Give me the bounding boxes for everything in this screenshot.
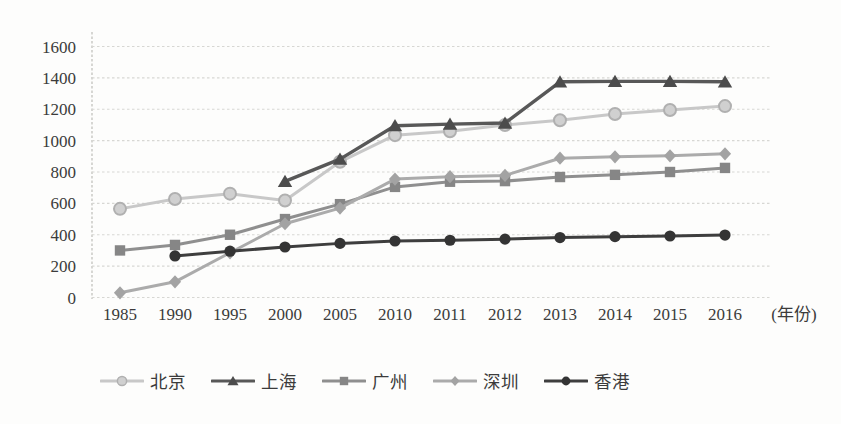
x-axis-tick-label: 1995 <box>213 305 247 324</box>
legend-label-shanghai: 上海 <box>261 368 297 393</box>
legend-marker-hongkong <box>544 373 588 389</box>
marker-shenzhen <box>554 152 566 165</box>
x-axis-tick-label: 2013 <box>543 305 577 324</box>
y-axis-tick-label: 1600 <box>42 38 76 57</box>
marker-beijing <box>114 203 126 215</box>
marker-guangzhou <box>225 230 235 240</box>
marker-beijing <box>609 108 621 120</box>
legend-item-guangzhou: 广州 <box>322 368 408 393</box>
marker-guangzhou <box>665 167 675 177</box>
marker-shenzhen <box>719 147 731 160</box>
x-axis-tick-label: 2000 <box>268 305 302 324</box>
legend-marker-guangzhou <box>322 373 366 389</box>
marker-hongkong <box>609 231 620 242</box>
x-axis-tick-label: 1990 <box>158 305 192 324</box>
legend-label-beijing: 北京 <box>150 368 186 393</box>
x-axis-unit-label: (年份) <box>771 305 816 324</box>
x-axis-tick-label: 2005 <box>323 305 357 324</box>
legend-marker-shenzhen <box>433 373 477 389</box>
legend-label-shenzhen: 深圳 <box>483 368 519 393</box>
legend-label-guangzhou: 广州 <box>372 368 408 393</box>
line-chart-canvas: 1600140012001000800600400200019851990199… <box>0 0 841 344</box>
legend-label-hongkong: 香港 <box>594 368 630 393</box>
y-axis-tick-label: 600 <box>51 194 77 213</box>
legend-item-shanghai: 上海 <box>211 368 297 393</box>
marker-hongkong <box>389 235 400 246</box>
y-axis-tick-label: 1400 <box>42 69 76 88</box>
x-axis-tick-label: 2016 <box>708 305 742 324</box>
line-chart-figure: 1600140012001000800600400200019851990199… <box>0 0 841 424</box>
marker-beijing <box>664 104 676 116</box>
marker-guangzhou <box>115 245 125 255</box>
marker-hongkong <box>664 230 675 241</box>
x-axis-tick-label: 2014 <box>598 305 633 324</box>
marker-hongkong <box>554 232 565 243</box>
legend-item-shenzhen: 深圳 <box>433 368 519 393</box>
legend-item-beijing: 北京 <box>100 368 186 393</box>
y-axis-tick-label: 400 <box>51 226 77 245</box>
marker-shenzhen <box>609 150 621 163</box>
marker-hongkong <box>279 241 290 252</box>
marker-hongkong <box>224 246 235 257</box>
marker-shenzhen <box>169 275 181 288</box>
marker-hongkong <box>169 250 180 261</box>
marker-hongkong <box>719 229 730 240</box>
marker-guangzhou <box>170 240 180 250</box>
series-shenzhen <box>114 147 731 299</box>
x-axis-tick-label: 1985 <box>103 305 137 324</box>
marker-shenzhen <box>664 149 676 162</box>
x-axis-tick-label: 2015 <box>653 305 687 324</box>
marker-beijing <box>554 114 566 126</box>
marker-hongkong <box>444 235 455 246</box>
marker-guangzhou <box>555 172 565 182</box>
marker-beijing <box>719 100 731 112</box>
y-axis-tick-label: 1200 <box>42 100 76 119</box>
series-line-guangzhou <box>120 168 725 251</box>
marker-beijing <box>169 193 181 205</box>
legend-marker-beijing <box>100 373 144 389</box>
marker-beijing <box>224 188 236 200</box>
x-axis-tick-label: 2010 <box>378 305 412 324</box>
marker-beijing <box>279 195 291 207</box>
x-axis-tick-label: 2011 <box>433 305 466 324</box>
y-axis-tick-label: 800 <box>51 163 77 182</box>
y-axis-tick-label: 200 <box>51 257 77 276</box>
legend-marker-shanghai <box>211 373 255 389</box>
legend-item-hongkong: 香港 <box>544 368 630 393</box>
x-axis-tick-label: 2012 <box>488 305 522 324</box>
marker-hongkong <box>334 238 345 249</box>
y-axis-tick-label: 0 <box>68 289 77 308</box>
y-axis-tick-label: 1000 <box>42 132 76 151</box>
marker-hongkong <box>499 234 510 245</box>
chart-legend: 北京上海广州深圳香港 <box>0 368 785 393</box>
marker-guangzhou <box>610 170 620 180</box>
marker-guangzhou <box>720 163 730 173</box>
